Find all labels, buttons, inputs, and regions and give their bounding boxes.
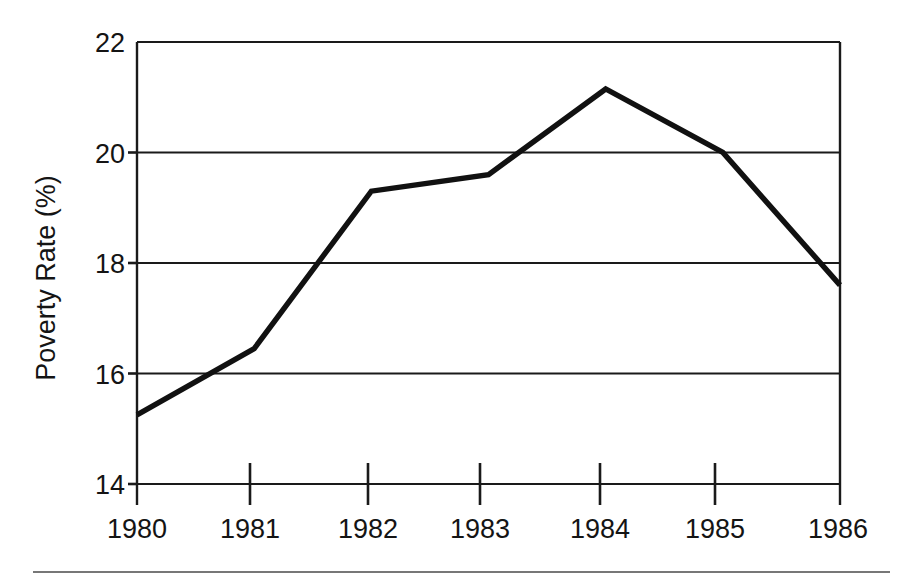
line-chart: 22 20 18 16 14 1980 1981 1982 1983 1984 … <box>0 0 907 585</box>
chart-figure: 22 20 18 16 14 1980 1981 1982 1983 1984 … <box>0 0 907 585</box>
xtick-label-1982: 1982 <box>338 514 398 544</box>
ytick-group <box>128 153 137 485</box>
xtick-label-1986: 1986 <box>808 514 868 544</box>
ytick-label-14: 14 <box>95 470 125 500</box>
ytick-label-16: 16 <box>95 360 125 390</box>
y-axis-title: Poverty Rate (%) <box>31 175 61 381</box>
xtick-label-1985: 1985 <box>685 514 745 544</box>
ytick-label-18: 18 <box>95 249 125 279</box>
xtick-label-1983: 1983 <box>450 514 510 544</box>
xtick-label-1984: 1984 <box>570 514 630 544</box>
xtick-label-1980: 1980 <box>107 514 167 544</box>
ytick-label-22: 22 <box>95 28 125 58</box>
ytick-label-20: 20 <box>95 139 125 169</box>
xtick-label-1981: 1981 <box>220 514 280 544</box>
